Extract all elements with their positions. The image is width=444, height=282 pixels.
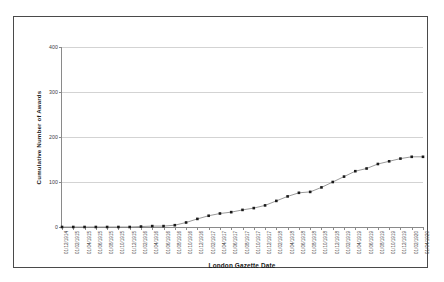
data-point-marker bbox=[410, 156, 413, 159]
x-tick-label: 01/12/1919 bbox=[402, 231, 407, 254]
x-tick-mark bbox=[231, 227, 232, 230]
x-tick-mark bbox=[333, 227, 334, 230]
x-tick-mark bbox=[412, 227, 413, 230]
data-point-marker bbox=[309, 191, 312, 194]
data-point-marker bbox=[151, 225, 154, 228]
x-tick-mark bbox=[254, 227, 255, 230]
x-tick-label: 01/12/1914 bbox=[64, 231, 69, 254]
x-tick-label: 01/02/1918 bbox=[278, 231, 283, 254]
data-point-marker bbox=[275, 200, 278, 203]
x-tick-label: 01/12/1915 bbox=[132, 231, 137, 254]
data-point-marker bbox=[117, 226, 120, 229]
data-point-marker bbox=[106, 226, 109, 229]
y-tick-label: 0 bbox=[55, 224, 58, 230]
data-point-marker bbox=[95, 226, 98, 229]
x-tick-mark bbox=[186, 227, 187, 230]
x-tick-mark bbox=[175, 227, 176, 230]
x-tick-label: 01/12/1917 bbox=[267, 231, 272, 254]
x-tick-mark bbox=[367, 227, 368, 230]
figure-border: Cumulative Number of Awards 010020030040… bbox=[13, 16, 428, 268]
x-tick-label: 01/02/1916 bbox=[143, 231, 148, 254]
data-point-marker bbox=[365, 167, 368, 170]
data-point-marker bbox=[252, 207, 255, 210]
x-tick-label: 01/02/1917 bbox=[211, 231, 216, 254]
data-point-marker bbox=[343, 175, 346, 178]
x-tick-label: 01/06/1918 bbox=[301, 231, 306, 254]
data-point-marker bbox=[219, 212, 222, 215]
x-tick-label: 01/08/1916 bbox=[177, 231, 182, 254]
x-tick-mark bbox=[243, 227, 244, 230]
data-point-marker bbox=[174, 224, 177, 227]
data-point-marker bbox=[331, 181, 334, 184]
data-point-marker bbox=[388, 160, 391, 163]
data-point-marker bbox=[320, 186, 323, 189]
data-point-marker bbox=[241, 209, 244, 212]
x-tick-label: 01/06/1919 bbox=[369, 231, 374, 254]
data-point-marker bbox=[61, 226, 64, 229]
x-tick-mark bbox=[378, 227, 379, 230]
data-point-marker bbox=[422, 156, 425, 159]
x-tick-label: 01/06/1916 bbox=[166, 231, 171, 254]
x-tick-mark bbox=[152, 227, 153, 230]
x-tick-label: 01/02/1920 bbox=[414, 231, 419, 254]
x-tick-label: 01/10/1915 bbox=[120, 231, 125, 254]
x-tick-label: 01/04/1916 bbox=[154, 231, 159, 254]
x-tick-label: 01/06/1917 bbox=[233, 231, 238, 254]
x-tick-label: 01/04/1919 bbox=[357, 231, 362, 254]
x-tick-label: 01/12/1918 bbox=[335, 231, 340, 254]
y-tick-label: 400 bbox=[49, 44, 58, 50]
x-tick-label: 01/08/1915 bbox=[109, 231, 114, 254]
x-tick-mark bbox=[423, 227, 424, 230]
data-point-marker bbox=[298, 192, 301, 195]
x-tick-mark bbox=[310, 227, 311, 230]
data-series-line bbox=[62, 47, 423, 227]
x-tick-label: 01/06/1915 bbox=[98, 231, 103, 254]
x-tick-label: 01/10/1917 bbox=[256, 231, 261, 254]
y-tick-label: 100 bbox=[49, 179, 58, 185]
data-point-marker bbox=[72, 226, 75, 229]
x-tick-mark bbox=[321, 227, 322, 230]
x-tick-label: 01/10/1919 bbox=[391, 231, 396, 254]
x-tick-mark bbox=[197, 227, 198, 230]
x-tick-mark bbox=[164, 227, 165, 230]
data-point-marker bbox=[83, 226, 86, 229]
x-tick-mark bbox=[389, 227, 390, 230]
x-tick-label: 01/10/1918 bbox=[323, 231, 328, 254]
x-tick-mark bbox=[355, 227, 356, 230]
x-tick-mark bbox=[288, 227, 289, 230]
y-tick-label: 300 bbox=[49, 89, 58, 95]
x-tick-label: 01/04/1918 bbox=[290, 231, 295, 254]
x-tick-mark bbox=[299, 227, 300, 230]
data-point-marker bbox=[162, 225, 165, 228]
x-tick-mark bbox=[400, 227, 401, 230]
x-tick-mark bbox=[265, 227, 266, 230]
plot-area: 010020030040001/12/191401/02/191501/04/1… bbox=[61, 47, 423, 228]
data-point-marker bbox=[264, 204, 267, 207]
plot-inner: 010020030040001/12/191401/02/191501/04/1… bbox=[62, 47, 423, 227]
data-point-marker bbox=[286, 195, 289, 198]
x-tick-label: 01/10/1916 bbox=[188, 231, 193, 254]
x-tick-mark bbox=[209, 227, 210, 230]
data-point-marker bbox=[354, 170, 357, 173]
x-tick-label: 01/02/1915 bbox=[75, 231, 80, 254]
chart-figure: Cumulative Number of Awards 010020030040… bbox=[0, 0, 444, 282]
x-tick-label: 01/08/1919 bbox=[380, 231, 385, 254]
data-point-marker bbox=[128, 226, 131, 229]
data-point-marker bbox=[196, 218, 199, 221]
x-tick-mark bbox=[276, 227, 277, 230]
x-tick-mark bbox=[220, 227, 221, 230]
data-point-marker bbox=[207, 214, 210, 217]
x-tick-label: 01/12/1916 bbox=[199, 231, 204, 254]
x-tick-mark bbox=[344, 227, 345, 230]
series-polyline bbox=[62, 157, 423, 227]
y-axis-title: Cumulative Number of Awards bbox=[33, 47, 44, 228]
x-tick-label: 01/04/1917 bbox=[222, 231, 227, 254]
x-axis-title: London Gazette Date bbox=[61, 262, 423, 269]
data-point-marker bbox=[377, 163, 380, 166]
x-tick-label: 01/04/1915 bbox=[87, 231, 92, 254]
x-tick-label: 01/02/1919 bbox=[346, 231, 351, 254]
x-tick-label: 01/04/1920 bbox=[425, 231, 430, 254]
data-point-marker bbox=[185, 221, 188, 224]
data-point-marker bbox=[399, 157, 402, 160]
y-tick-label: 200 bbox=[49, 134, 58, 140]
